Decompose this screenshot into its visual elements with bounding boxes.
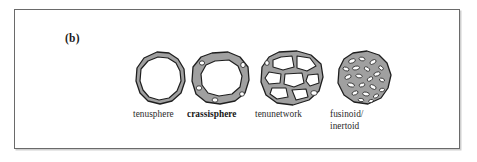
specimen-label-fusinoid-inertoid: fusinoid/ inertoid <box>330 109 364 132</box>
specimen-illustration-tenunetwork <box>259 50 325 108</box>
specimen-label-tenunetwork: tenunetwork <box>255 109 302 121</box>
thin-walled-sphere-icon <box>133 50 189 108</box>
figure-frame: (b) <box>14 9 460 149</box>
specimen-illustration-crassisphere <box>190 50 252 108</box>
specimen-illustration-row <box>133 50 395 108</box>
network-cells-icon <box>259 50 325 108</box>
specimen-illustration-tenusphere <box>133 50 189 108</box>
thick-walled-sphere-icon <box>190 50 252 108</box>
specimen-label-fusinoid-line2: inertoid <box>330 121 364 133</box>
specimen-illustration-fusinoid-inertoid <box>335 50 393 108</box>
specimen-label-row: tenusphere crassisphere tenunetwork fusi… <box>133 109 405 139</box>
specimen-label-fusinoid-line1: fusinoid/ <box>330 109 364 121</box>
dense-fusinoid-icon <box>335 50 393 108</box>
specimen-label-tenusphere: tenusphere <box>133 109 174 121</box>
specimen-label-crassisphere: crassisphere <box>187 109 237 121</box>
panel-label: (b) <box>65 32 80 44</box>
